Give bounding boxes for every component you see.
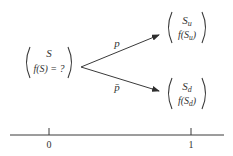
- root-payoff: f(S) = ?: [33, 63, 64, 75]
- right-paren: [68, 47, 72, 78]
- tree-edges: p p̄: [81, 35, 159, 93]
- up-arrow: [81, 35, 159, 67]
- binomial-tree-diagram: S f(S) = ? p p̄ Su f(Su) Sd f(Sd) 0 1: [0, 0, 233, 156]
- tick-label-1: 1: [189, 139, 194, 150]
- down-probability-label: p̄: [113, 81, 120, 93]
- left-paren: [169, 12, 173, 43]
- left-paren: [169, 78, 173, 109]
- down-value: Sd: [182, 80, 193, 94]
- down-payoff: f(Sd): [178, 95, 197, 108]
- up-payoff: f(Su): [178, 29, 197, 42]
- right-paren: [202, 12, 206, 43]
- tick-label-0: 0: [47, 139, 52, 150]
- left-paren: [27, 47, 31, 78]
- down-arrow: [81, 67, 159, 91]
- up-probability-label: p: [113, 37, 120, 49]
- up-value: Su: [182, 14, 192, 28]
- time-axis: 0 1: [10, 128, 224, 150]
- down-node: Sd f(Sd): [169, 78, 206, 109]
- right-paren: [202, 78, 206, 109]
- root-node: S f(S) = ?: [27, 47, 72, 78]
- root-value: S: [46, 47, 52, 59]
- up-node: Su f(Su): [169, 12, 206, 43]
